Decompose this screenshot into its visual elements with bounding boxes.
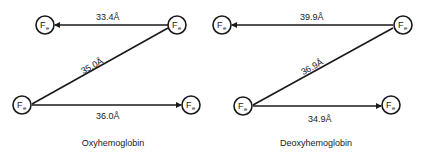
fe-node-bottom-left: Fe: [13, 96, 31, 114]
deoxyhemoglobin-diagram: 39.9Å 36.9Å 34.9Å Fe Fe Fe Fe: [213, 12, 412, 124]
fe-node-bottom-right: Fe: [382, 96, 400, 114]
fe-node-top-right: Fe: [168, 16, 186, 34]
caption-deoxyhemoglobin: Deoxyhemoglobin: [236, 138, 396, 148]
caption-oxyhemoglobin: Oxyhemoglobin: [33, 138, 193, 148]
fe-node-bottom-right: Fe: [182, 96, 200, 114]
fe-node-top-left: Fe: [213, 16, 231, 34]
fe-node-top-right: Fe: [394, 16, 412, 34]
fe-node-bottom-left: Fe: [234, 97, 252, 115]
oxyhemoglobin-diagram: 33.4Å 35.0Å 36.0Å Fe Fe Fe Fe: [13, 12, 200, 121]
hemoglobin-fe-distance-diagram: 33.4Å 35.0Å 36.0Å Fe Fe Fe Fe 39.9Å 36.9…: [0, 0, 426, 160]
distance-top: 39.9Å: [300, 12, 324, 22]
distance-diagonal: 36.9Å: [299, 57, 324, 77]
distance-bottom: 36.0Å: [96, 111, 120, 121]
distance-top: 33.4Å: [96, 12, 120, 22]
distance-bottom: 34.9Å: [308, 114, 332, 124]
distance-diagonal: 35.0Å: [79, 56, 104, 76]
fe-node-top-left: Fe: [36, 16, 54, 34]
